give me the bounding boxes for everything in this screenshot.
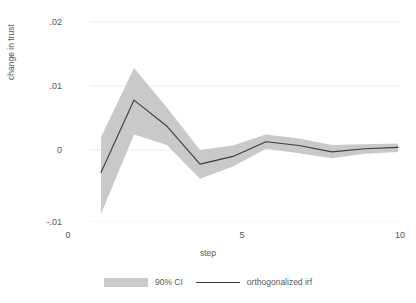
confidence-band-90 (101, 68, 398, 214)
y-axis-title: change in trust (6, 66, 16, 80)
x-axis-title: step (0, 248, 416, 258)
legend-label-confidence-interval: 90% CI (155, 277, 183, 287)
x-axis-tick-labels: 0 5 10 (0, 230, 416, 244)
x-tick-label-0: 0 (60, 230, 76, 241)
band-swatch-icon (104, 278, 148, 287)
legend-entry-orthogonalized-irf: orthogonalized irf (196, 277, 312, 287)
chart-canvas (68, 12, 400, 222)
y-tick-label-0.02: .02 (49, 17, 62, 27)
line-swatch-icon (196, 278, 240, 287)
legend-label-orthogonalized-irf: orthogonalized irf (247, 277, 312, 287)
chart-legend: 90% CI orthogonalized irf (0, 274, 416, 290)
plot-area (68, 12, 400, 222)
x-tick-label-10: 10 (390, 230, 410, 241)
y-tick-label-0.01: .01 (49, 81, 62, 91)
irf-chart-figure: .02 .01 0 -.01 change in trust 0 5 10 st… (0, 0, 416, 303)
legend-entry-confidence-interval: 90% CI (104, 277, 183, 287)
x-tick-label-5: 5 (234, 230, 250, 241)
y-tick-label-minus0.01: -.01 (46, 217, 62, 227)
y-tick-label-0: 0 (57, 145, 62, 155)
